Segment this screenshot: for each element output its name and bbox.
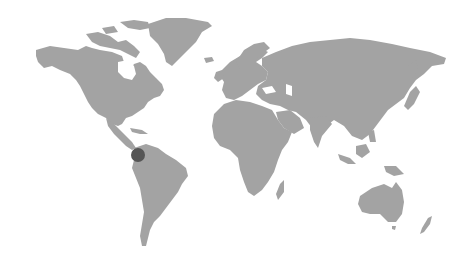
arctic-island xyxy=(120,20,150,30)
world-map-graphic xyxy=(0,0,476,256)
continent-north-america xyxy=(36,46,164,126)
arctic-island xyxy=(102,26,118,34)
world-map xyxy=(0,0,476,256)
continent-australia xyxy=(358,182,404,222)
philippines xyxy=(368,130,376,142)
new-guinea xyxy=(384,166,404,176)
southeast-asia-islands xyxy=(338,154,356,164)
caribbean-islands xyxy=(130,128,148,134)
location-marker[interactable] xyxy=(131,148,145,162)
borneo xyxy=(356,144,370,158)
madagascar xyxy=(276,180,284,200)
new-zealand xyxy=(420,216,432,234)
tasmania xyxy=(392,226,396,230)
india xyxy=(310,116,332,148)
caspian-sea xyxy=(286,84,292,96)
iceland xyxy=(204,57,214,63)
continent-greenland xyxy=(148,18,212,66)
